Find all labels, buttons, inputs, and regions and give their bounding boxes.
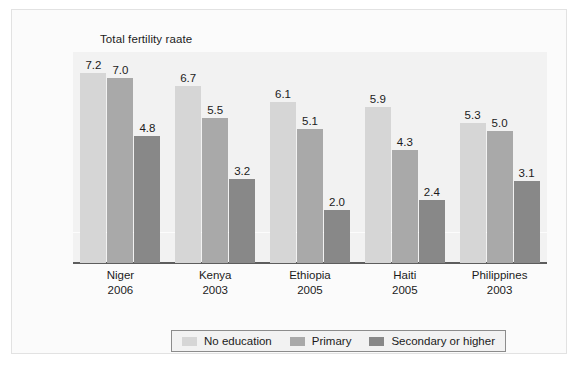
bar: 5.5 — [202, 118, 228, 263]
bar-value-label: 5.9 — [370, 93, 386, 105]
bar-group: 7.27.04.8 — [80, 52, 160, 263]
bar-groups: 7.27.04.86.75.53.26.15.12.05.94.32.45.35… — [73, 52, 547, 263]
legend-label: No education — [204, 335, 272, 347]
bar: 5.3 — [460, 123, 486, 263]
x-axis-label-year: 2005 — [263, 283, 358, 298]
legend-label: Primary — [312, 335, 352, 347]
x-axis-label-country: Ethiopia — [263, 268, 358, 283]
chart-figure: Total fertility raate 7.27.04.86.75.53.2… — [11, 9, 567, 354]
bar: 4.8 — [134, 136, 160, 263]
bar-value-label: 3.2 — [234, 165, 250, 177]
bar-value-label: 5.3 — [465, 109, 481, 121]
bar-value-label: 5.5 — [207, 104, 223, 116]
bar-value-label: 6.7 — [180, 72, 196, 84]
x-axis-labels: Niger2006Kenya2003Ethiopia2005Haiti2005P… — [73, 268, 547, 308]
bar-value-label: 6.1 — [275, 88, 291, 100]
legend-item: Primary — [290, 335, 352, 347]
bar-value-label: 7.0 — [112, 64, 128, 76]
x-axis-label: Niger2006 — [73, 268, 168, 298]
bar-value-label: 5.1 — [302, 115, 318, 127]
x-axis-label-country: Kenya — [168, 268, 263, 283]
bar: 2.0 — [324, 210, 350, 263]
bar: 5.1 — [297, 129, 323, 264]
x-axis-label: Ethiopia2005 — [263, 268, 358, 298]
chart-legend: No educationPrimarySecondary or higher — [171, 330, 506, 352]
legend-swatch — [290, 337, 305, 346]
x-axis-label: Haiti2005 — [357, 268, 452, 298]
x-axis-label-country: Haiti — [357, 268, 452, 283]
x-axis-label-year: 2003 — [168, 283, 263, 298]
x-axis-label-year: 2003 — [452, 283, 547, 298]
bar: 5.9 — [365, 107, 391, 263]
x-axis-label-country: Niger — [73, 268, 168, 283]
bar: 2.4 — [419, 200, 445, 263]
bar: 6.1 — [270, 102, 296, 263]
legend-label: Secondary or higher — [391, 335, 495, 347]
bar-value-label: 5.0 — [492, 117, 508, 129]
legend-swatch — [369, 337, 384, 346]
bar-group: 6.75.53.2 — [175, 52, 255, 263]
legend-item: Secondary or higher — [369, 335, 495, 347]
legend-swatch — [182, 337, 197, 346]
bar-group: 6.15.12.0 — [270, 52, 350, 263]
bar-value-label: 3.1 — [519, 167, 535, 179]
bar: 3.1 — [514, 181, 540, 263]
bar-value-label: 4.8 — [139, 122, 155, 134]
bar-group: 5.94.32.4 — [365, 52, 445, 263]
bar: 6.7 — [175, 86, 201, 263]
legend-item: No education — [182, 335, 272, 347]
bar: 7.0 — [107, 78, 133, 263]
bar-value-label: 7.2 — [85, 59, 101, 71]
bar-value-label: 2.4 — [424, 186, 440, 198]
bar: 5.0 — [487, 131, 513, 263]
chart-title: Total fertility raate — [100, 33, 192, 45]
x-axis-label-country: Philippines — [452, 268, 547, 283]
bar: 4.3 — [392, 150, 418, 263]
x-axis-label-year: 2005 — [357, 283, 452, 298]
x-axis-label-year: 2006 — [73, 283, 168, 298]
x-axis-label: Philippines2003 — [452, 268, 547, 298]
bar-value-label: 4.3 — [397, 136, 413, 148]
bar: 3.2 — [229, 179, 255, 263]
bar: 7.2 — [80, 73, 106, 263]
bar-group: 5.35.03.1 — [460, 52, 540, 263]
bar-value-label: 2.0 — [329, 196, 345, 208]
x-axis-label: Kenya2003 — [168, 268, 263, 298]
